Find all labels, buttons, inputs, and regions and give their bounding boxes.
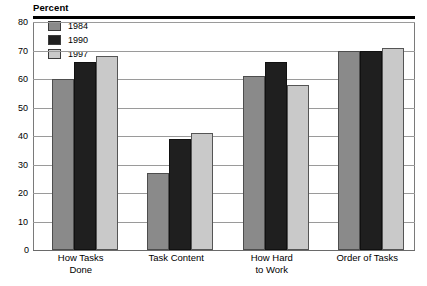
x-axis-label-line: Task Content [129,252,225,264]
bar-group [338,22,404,250]
bar-1990-4 [360,51,382,251]
bar-1984-1 [52,79,74,250]
y-axis-tick-label: 80 [18,17,28,27]
bar-1984-3 [243,76,265,250]
bar-1997-1 [96,56,118,250]
bars-layer [33,22,415,250]
x-axis-label: Order of Tasks [320,252,416,264]
x-axis-label-line: Done [33,264,129,276]
bar-1990-3 [265,62,287,250]
bar-1984-2 [147,173,169,250]
y-axis-tick-label: 40 [18,131,28,141]
y-axis-tick-label: 60 [18,74,28,84]
plot-area: 01020304050607080 [33,22,415,250]
x-axis-label-line: How Hard [224,252,320,264]
x-axis-labels: How TasksDoneTask ContentHow Hardto Work… [33,252,415,286]
x-axis-label: Task Content [129,252,225,264]
bar-group [243,22,309,250]
chart-title: Percent [33,2,69,13]
y-axis-tick-label: 10 [18,217,28,227]
bar-1990-2 [169,139,191,250]
bar-1997-3 [287,85,309,250]
y-axis-tick-label: 70 [18,46,28,56]
bar-group [147,22,213,250]
y-axis-tick-label: 20 [18,188,28,198]
y-axis-tick-label: 0 [24,245,29,255]
bar-chart: Percent 198419901997 01020304050607080 H… [0,0,427,286]
x-axis-label-line: Order of Tasks [320,252,416,264]
x-axis-label-line: How Tasks [33,252,129,264]
x-axis-label: How TasksDone [33,252,129,276]
y-axis-tick-label: 50 [18,103,28,113]
y-axis-tick-label: 30 [18,160,28,170]
x-axis-label-line: to Work [224,264,320,276]
x-axis-label: How Hardto Work [224,252,320,276]
gridline: 0 [33,250,415,251]
bar-1997-2 [191,133,213,250]
bar-1997-4 [382,48,404,250]
bar-1990-1 [74,62,96,250]
bar-1984-4 [338,51,360,251]
bar-group [52,22,118,250]
